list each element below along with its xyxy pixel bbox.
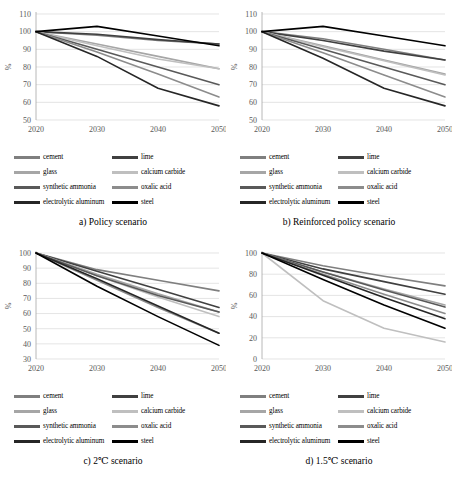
- legend-swatch-icon: [338, 156, 364, 159]
- legend-label: electrolytic aluminum: [43, 198, 104, 207]
- legend-swatch-icon: [240, 440, 266, 443]
- legend-swatch-icon: [338, 440, 364, 443]
- legend-label: steel: [367, 437, 380, 446]
- legend-label: calcium carbide: [141, 168, 185, 177]
- legend-swatch-icon: [240, 395, 266, 398]
- legend-item: synthetic ammonia: [14, 180, 112, 195]
- legend-swatch-icon: [112, 425, 138, 428]
- legend-item: oxalic acid: [338, 180, 446, 195]
- x-axis-tick-label: 2040: [150, 125, 166, 134]
- legend-label: synthetic ammonia: [43, 422, 96, 431]
- legend-item: electrolytic aluminum: [240, 434, 338, 449]
- y-axis-tick-label: 60: [23, 309, 31, 318]
- legend-label: calcium carbide: [367, 407, 411, 416]
- legend-swatch-icon: [240, 201, 266, 204]
- series-line: [262, 253, 445, 319]
- y-axis-tick-label: 60: [23, 98, 31, 107]
- y-axis-tick-label: 50: [23, 116, 31, 125]
- series-line: [36, 253, 219, 333]
- legend-swatch-icon: [112, 395, 138, 398]
- legend-swatch-icon: [338, 425, 364, 428]
- series-line: [262, 32, 445, 60]
- legend-swatch-icon: [112, 410, 138, 413]
- legend-item: synthetic ammonia: [240, 419, 338, 434]
- legend-item: oxalic acid: [338, 419, 446, 434]
- y-axis-title: %: [230, 63, 239, 70]
- legend-label: synthetic ammonia: [269, 183, 322, 192]
- y-axis-tick-label: 50: [23, 325, 31, 334]
- legend-one-point-five-degree: cementlimeglasscalcium carbidesynthetic …: [240, 389, 446, 449]
- legend-label: lime: [141, 153, 153, 162]
- y-axis-tick-label: 90: [249, 45, 257, 54]
- legend-label: oxalic acid: [367, 183, 397, 192]
- legend-label: glass: [43, 168, 57, 177]
- x-axis-tick-label: 2040: [150, 364, 166, 373]
- legend-label: steel: [367, 198, 380, 207]
- legend-swatch-icon: [112, 186, 138, 189]
- legend-item: glass: [14, 404, 112, 419]
- y-axis-tick-label: 110: [19, 10, 31, 19]
- legend-swatch-icon: [14, 156, 40, 159]
- y-axis-tick-label: 90: [23, 45, 31, 54]
- legend-item: calcium carbide: [112, 404, 220, 419]
- legend-item: cement: [14, 150, 112, 165]
- y-axis-tick-label: 80: [23, 279, 31, 288]
- legend-item: lime: [338, 389, 446, 404]
- x-axis-tick-label: 2040: [376, 364, 392, 373]
- legend-policy: cementlimeglasscalcium carbidesynthetic …: [14, 150, 220, 210]
- legend-swatch-icon: [338, 410, 364, 413]
- series-line: [262, 32, 445, 75]
- series-line: [36, 253, 219, 312]
- legend-item: glass: [240, 165, 338, 180]
- x-axis-tick-label: 2020: [28, 125, 44, 134]
- legend-label: steel: [141, 437, 154, 446]
- legend-swatch-icon: [240, 410, 266, 413]
- legend-item: electrolytic aluminum: [14, 434, 112, 449]
- panel-caption-one-point-five-degree: d) 1.5℃ scenario: [226, 455, 452, 467]
- y-axis-tick-label: 30: [23, 355, 31, 364]
- y-axis-tick-label: 100: [19, 249, 31, 258]
- legend-label: synthetic ammonia: [43, 183, 96, 192]
- legend-label: electrolytic aluminum: [43, 437, 104, 446]
- legend-label: oxalic acid: [367, 422, 397, 431]
- x-axis-tick-label: 2020: [254, 125, 270, 134]
- legend-label: cement: [43, 153, 63, 162]
- legend-label: lime: [367, 153, 379, 162]
- legend-item: steel: [338, 434, 446, 449]
- y-axis-tick-label: 70: [23, 294, 31, 303]
- y-axis-tick-label: 90: [23, 264, 31, 273]
- legend-swatch-icon: [14, 171, 40, 174]
- x-axis-tick-label: 2030: [89, 125, 105, 134]
- legend-label: lime: [141, 392, 153, 401]
- legend-item: cement: [240, 150, 338, 165]
- legend-swatch-icon: [112, 201, 138, 204]
- legend-label: electrolytic aluminum: [269, 437, 330, 446]
- legend-item: lime: [112, 150, 220, 165]
- legend-label: steel: [141, 198, 154, 207]
- y-axis-title: %: [230, 302, 239, 309]
- legend-label: lime: [367, 392, 379, 401]
- plot-area-reinforced-policy: 50607080901001102020203020402050%: [226, 0, 452, 148]
- y-axis-tick-label: 70: [249, 80, 257, 89]
- legend-swatch-icon: [14, 201, 40, 204]
- x-axis-tick-label: 2050: [437, 125, 452, 134]
- legend-label: calcium carbide: [141, 407, 185, 416]
- y-axis-tick-label: 40: [23, 340, 31, 349]
- legend-swatch-icon: [338, 186, 364, 189]
- legend-label: glass: [43, 407, 57, 416]
- legend-label: oxalic acid: [141, 422, 171, 431]
- chart-panel-one-point-five-degree: 0204060801002020203020402050% cementlime…: [226, 239, 452, 478]
- legend-label: cement: [43, 392, 63, 401]
- y-axis-tick-label: 100: [245, 27, 257, 36]
- legend-swatch-icon: [338, 395, 364, 398]
- legend-item: electrolytic aluminum: [240, 195, 338, 210]
- legend-item: cement: [240, 389, 338, 404]
- legend-swatch-icon: [14, 395, 40, 398]
- chart-panel-reinforced-policy: 50607080901001102020203020402050% cement…: [226, 0, 452, 239]
- panel-caption-two-degree: c) 2℃ scenario: [0, 455, 226, 467]
- legend-swatch-icon: [338, 171, 364, 174]
- legend-swatch-icon: [14, 440, 40, 443]
- legend-item: glass: [14, 165, 112, 180]
- y-axis-tick-label: 80: [23, 63, 31, 72]
- legend-reinforced-policy: cementlimeglasscalcium carbidesynthetic …: [240, 150, 446, 210]
